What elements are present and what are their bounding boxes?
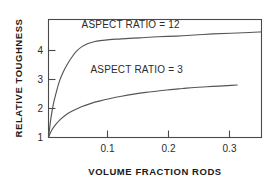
- x-tick-label-0.2: 0.2: [162, 143, 176, 154]
- annotation-aspect-ratio-3: ASPECT RATIO = 3: [90, 64, 183, 75]
- y-tick-label-1: 1: [37, 132, 43, 143]
- chart-page: 4 3 2 1 0.1 0.2 0.3 ASPECT RATIO = 12 AS…: [0, 0, 275, 191]
- y-tick-label-2: 2: [37, 103, 43, 114]
- x-axis-ticks: [108, 131, 230, 138]
- curve-aspect-ratio-12: [49, 32, 262, 138]
- curve-aspect-ratio-3: [49, 85, 238, 137]
- x-axis-title: VOLUME FRACTION RODS: [88, 166, 221, 177]
- y-axis-title: RELATIVE TOUGHNESS: [13, 19, 24, 138]
- relative-toughness-chart: 4 3 2 1 0.1 0.2 0.3 ASPECT RATIO = 12 AS…: [0, 0, 275, 191]
- annotation-aspect-ratio-12: ASPECT RATIO = 12: [82, 19, 181, 30]
- x-tick-label-0.3: 0.3: [223, 143, 237, 154]
- x-tick-label-0.1: 0.1: [101, 143, 115, 154]
- y-tick-label-4: 4: [37, 45, 43, 56]
- y-tick-label-3: 3: [37, 74, 43, 85]
